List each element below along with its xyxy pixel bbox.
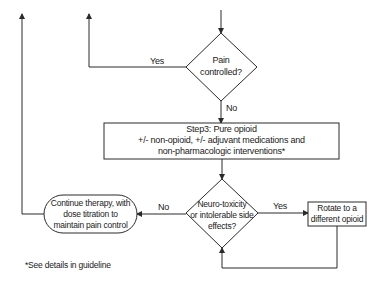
footnote: *See details in guideline — [25, 260, 111, 271]
continue-therapy-label-2: dose titration to — [44, 209, 137, 220]
edge-label-neuro-no: No — [158, 202, 169, 213]
neurotoxicity-label-2: or intolerable side — [186, 210, 258, 221]
edge-continue-to-top — [22, 14, 44, 214]
rotate-opioid-label-1: Rotate to a — [308, 203, 366, 214]
continue-therapy-label-3: maintain pain control — [44, 220, 137, 231]
step3-label-1: Step3: Pure opioid — [104, 124, 339, 135]
continue-therapy-label-1: Continue therapy, with — [44, 198, 137, 209]
edge-label-neuro-yes: Yes — [273, 201, 287, 212]
edge-rotate-loop — [222, 226, 337, 268]
edge-label-pain-no: No — [226, 103, 237, 114]
step3-label-2: +/- non-opioid, +/- adjuvant medications… — [104, 135, 339, 146]
rotate-opioid-label-2: different opioid — [308, 214, 366, 225]
pain-controlled-label-1: Pain — [191, 55, 251, 66]
pain-controlled-label-2: controlled? — [191, 67, 251, 78]
edge-pain-yes — [89, 14, 186, 67]
neurotoxicity-label-1: Neuro-toxicity — [186, 199, 258, 210]
edge-label-pain-yes: Yes — [150, 56, 164, 67]
neurotoxicity-label-3: effects? — [186, 221, 258, 232]
step3-label-3: non-pharmacologic interventions* — [104, 146, 339, 157]
